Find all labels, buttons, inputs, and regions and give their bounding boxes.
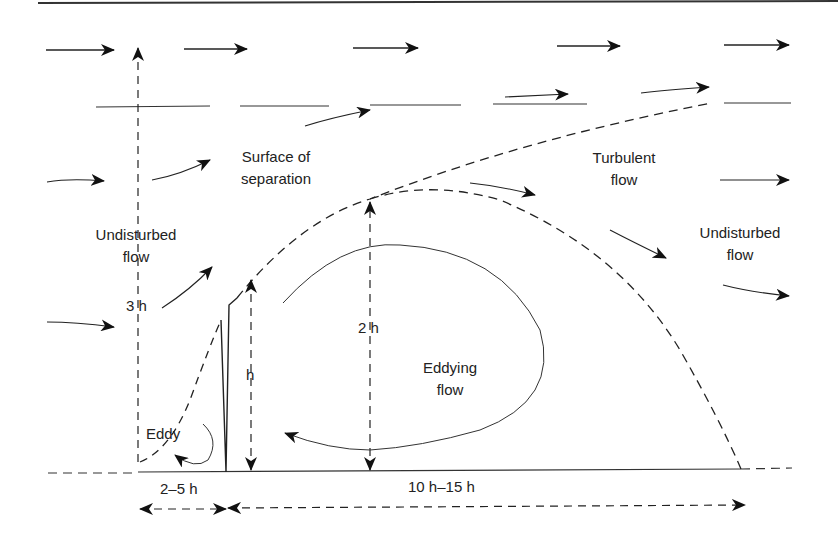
label-line: Turbulent	[580, 147, 668, 169]
turbulent-flow-label: Turbulent flow	[580, 147, 668, 191]
label-line: flow	[580, 169, 668, 191]
surface-of-separation-label: Surface of separation	[232, 146, 320, 190]
windbreak-airflow-diagram	[0, 0, 838, 539]
flow-arrows-top-row	[46, 45, 789, 50]
label-line: Undisturbed	[86, 224, 186, 246]
barrier	[221, 298, 237, 472]
label-line: Eddying	[410, 357, 490, 379]
flow-arrows-second-row	[305, 87, 709, 126]
upwind-distance-label: 2–5 h	[160, 480, 198, 497]
label-line: Undisturbed	[690, 222, 790, 244]
eddy-zone-boundary	[370, 190, 741, 469]
streamline-segments	[96, 103, 791, 107]
eddying-flow-loop	[283, 245, 544, 450]
downwind-distance-label: 10 h–15 h	[408, 478, 475, 495]
downwind-distance-arrow	[228, 505, 745, 508]
label-line: Surface of	[232, 146, 320, 168]
label-line: flow	[690, 244, 790, 266]
undisturbed-flow-right-label: Undisturbed flow	[690, 222, 790, 266]
barrier-height-label: h	[246, 366, 254, 383]
top-border	[38, 1, 838, 3]
label-line: flow	[410, 379, 490, 401]
eddy-label: Eddy	[146, 423, 180, 445]
label-line: separation	[232, 168, 320, 190]
label-line: flow	[86, 246, 186, 268]
upwind-height-label: 3 h	[126, 297, 147, 314]
undisturbed-flow-left-label: Undisturbed flow	[86, 224, 186, 268]
surface-of-separation-line	[237, 103, 712, 298]
eddy-height-label: 2 h	[358, 319, 379, 336]
label-line: Eddy	[146, 423, 180, 445]
eddying-flow-label: Eddying flow	[410, 357, 490, 401]
small-eddy-arrow	[175, 424, 213, 464]
ground-line	[48, 468, 792, 473]
